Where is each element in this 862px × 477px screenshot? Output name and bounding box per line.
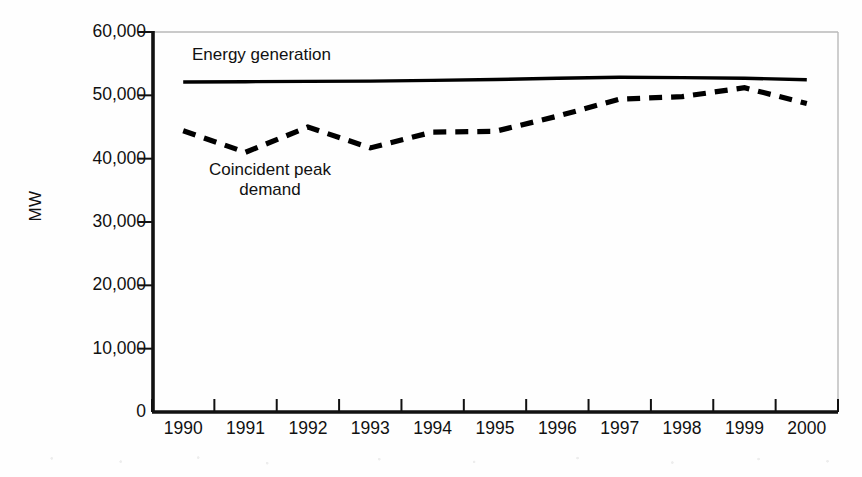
plot-area [0,0,862,477]
x-axis-tick-label: 1991 [211,418,281,439]
x-axis-tick-marks [152,399,838,412]
x-axis-tick-label: 1997 [585,418,655,439]
x-axis-tick-label: 1999 [709,418,779,439]
x-axis-tick-label: 1994 [398,418,468,439]
x-axis-tick-label: 1993 [335,418,405,439]
series-label-energy-generation: Energy generation [192,45,331,65]
x-axis-tick-label: 2000 [772,418,842,439]
x-axis-tick-label: 1995 [460,418,530,439]
series-line-energy-generation [183,77,807,82]
scan-artifact-band [0,452,862,468]
x-axis-tick-label: 1990 [148,418,218,439]
series-line-coincident-peak-demand [183,88,807,153]
x-axis-tick-label: 1996 [522,418,592,439]
chart-figure: MW 60,00050,00040,00030,00020,00010,0000… [0,0,862,477]
y-axis-tick-marks [138,32,153,349]
x-axis-tick-labels: 1990199119921993199419951996199719981999… [152,418,838,446]
series-label-line-1: Coincident peak [209,160,331,179]
series-label-coincident-peak-demand: Coincident peak demand [185,160,355,200]
x-axis-tick-label: 1992 [273,418,343,439]
x-axis-tick-label: 1998 [647,418,717,439]
series-label-line-2: demand [185,180,355,200]
